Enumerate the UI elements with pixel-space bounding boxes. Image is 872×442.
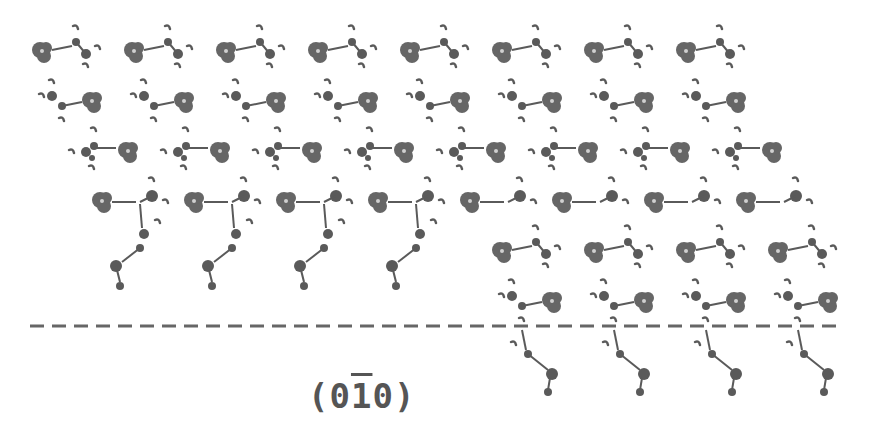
row-1: [32, 25, 744, 67]
molecule: [39, 79, 102, 121]
molecule: [683, 279, 746, 321]
molecule: [32, 25, 100, 67]
molecule-lattice: [0, 0, 872, 442]
molecule: [253, 127, 322, 169]
molecule: [184, 177, 260, 290]
molecule: [492, 225, 560, 267]
molecule: [591, 279, 654, 321]
molecule: [161, 127, 230, 169]
surface-tails: [511, 330, 834, 396]
molecule: [124, 25, 192, 67]
molecule: [584, 225, 652, 267]
overbar-index: 1: [351, 376, 372, 416]
molecule: [499, 279, 562, 321]
molecule: [736, 177, 812, 213]
molecule: [529, 127, 598, 169]
molecule: [499, 79, 562, 121]
molecule: [276, 177, 352, 290]
molecule: [345, 127, 414, 169]
molecule: [315, 79, 378, 121]
row-2: [39, 79, 746, 121]
molecule: [492, 25, 560, 67]
molecule: [69, 127, 138, 169]
molecule: [552, 177, 628, 213]
molecule: [768, 225, 836, 267]
molecule: [775, 279, 838, 321]
row-4b: [460, 177, 812, 213]
row-6: [499, 279, 838, 321]
molecule: [223, 79, 286, 121]
molecule: [683, 79, 746, 121]
molecule: [591, 79, 654, 121]
molecule: [676, 25, 744, 67]
molecule: [713, 127, 782, 169]
molecule: [368, 177, 444, 290]
molecule: [584, 25, 652, 67]
molecule: [92, 177, 168, 290]
molecule: [460, 177, 536, 213]
molecule: [644, 177, 720, 213]
molecule: [621, 127, 690, 169]
molecule: [400, 25, 468, 67]
row-4: [92, 177, 444, 290]
molecule: [308, 25, 376, 67]
molecule: [131, 79, 194, 121]
molecule: [437, 127, 506, 169]
row-5: [492, 225, 836, 267]
row-3: [69, 127, 782, 169]
molecule: [407, 79, 470, 121]
molecule: [676, 225, 744, 267]
molecule: [216, 25, 284, 67]
miller-index-label: (010): [308, 376, 415, 416]
crystal-packing-figure: (010): [0, 0, 872, 442]
